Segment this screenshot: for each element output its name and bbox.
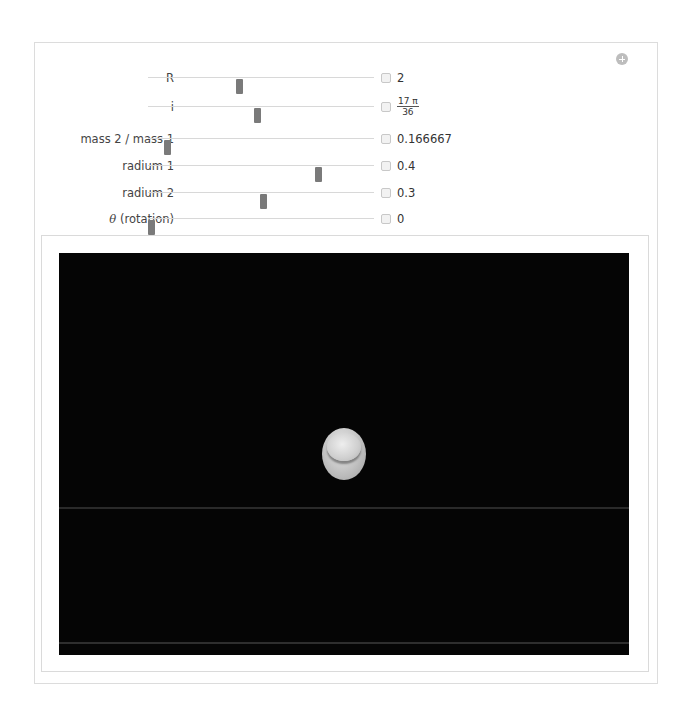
control-label: radium 2 [122, 183, 174, 203]
plus-square-icon[interactable] [381, 73, 391, 83]
control-i: i 17 π 36 [34, 97, 494, 117]
label-text: (rotation) [116, 212, 174, 226]
control-r: R 2 [34, 68, 494, 88]
3d-viewer[interactable] [59, 253, 629, 655]
control-value: 17 π 36 [397, 97, 419, 117]
slider-radium-1[interactable] [148, 165, 374, 166]
control-radium-1: radium 1 0.4 [34, 156, 494, 176]
slider-thumb[interactable] [254, 108, 261, 123]
plus-square-icon[interactable] [381, 188, 391, 198]
plus-square-icon[interactable] [381, 161, 391, 171]
slider-thumb[interactable] [148, 220, 155, 235]
control-value: 0.3 [397, 183, 415, 203]
bottom-line [59, 642, 629, 644]
slider-thumb[interactable] [260, 194, 267, 209]
control-label: R [166, 68, 174, 88]
control-label: mass 2 / mass 1 [80, 129, 174, 149]
plus-square-icon[interactable] [381, 134, 391, 144]
control-radium-2: radium 2 0.3 [34, 183, 494, 203]
fraction-numerator: 17 π [397, 96, 419, 107]
plus-square-icon[interactable] [381, 102, 391, 112]
fraction: 17 π 36 [397, 96, 419, 117]
slider-i[interactable] [148, 106, 374, 107]
fraction-denominator: 36 [397, 107, 419, 117]
star-2 [327, 433, 361, 461]
plus-circle-icon[interactable] [616, 53, 628, 65]
control-label: radium 1 [122, 156, 174, 176]
control-mass-ratio: mass 2 / mass 1 0.166667 [34, 129, 494, 149]
slider-thumb[interactable] [315, 167, 322, 182]
slider-thumb[interactable] [164, 140, 171, 155]
slider-thumb[interactable] [236, 79, 243, 94]
control-value: 2 [397, 68, 404, 88]
control-value: 0.166667 [397, 129, 452, 149]
control-rotation: θ (rotation) 0 [34, 209, 494, 229]
horizon-line [59, 507, 629, 509]
slider-r[interactable] [148, 77, 374, 78]
slider-rotation[interactable] [148, 218, 374, 219]
slider-radium-2[interactable] [148, 192, 374, 193]
control-label: θ (rotation) [109, 209, 174, 229]
control-label: i [171, 97, 174, 117]
control-value: 0 [397, 209, 404, 229]
plus-square-icon[interactable] [381, 214, 391, 224]
control-value: 0.4 [397, 156, 415, 176]
slider-mass-ratio[interactable] [148, 138, 374, 139]
